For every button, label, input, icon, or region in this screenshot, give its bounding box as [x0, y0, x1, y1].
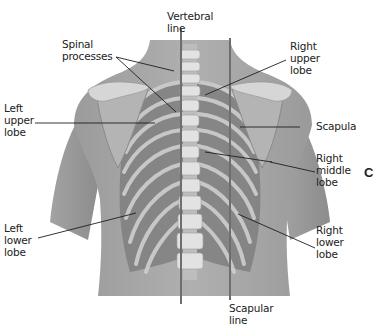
label-left-lower-lobe: Left lower lobe: [4, 222, 32, 258]
label-scapular-line: Scapular line: [229, 302, 273, 326]
label-vertebral-line: Vertebral line: [167, 10, 213, 34]
label-scapula: Scapula: [316, 120, 356, 132]
label-right-lower-lobe: Right lower lobe: [316, 224, 344, 260]
label-spinal-processes: Spinal processes: [62, 38, 112, 62]
posterior-thorax-diagram: Vertebral line Spinal processes Right up…: [0, 0, 376, 329]
panel-letter: C: [364, 165, 373, 180]
label-left-upper-lobe: Left upper lobe: [4, 102, 34, 138]
label-right-upper-lobe: Right upper lobe: [290, 40, 320, 76]
label-right-middle-lobe: Right middle lobe: [316, 152, 351, 188]
